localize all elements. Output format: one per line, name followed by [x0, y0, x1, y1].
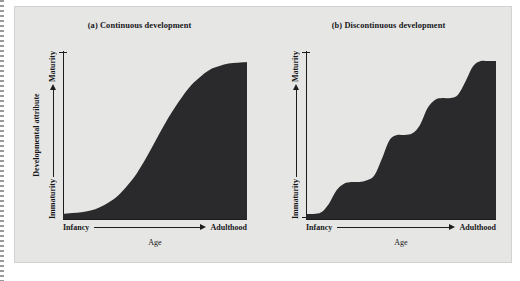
x-axis-high-label-continuous: Adulthood — [211, 223, 247, 232]
y-axis-arrow-icon — [46, 84, 60, 177]
y-axis-scale-continuous: Maturity Immaturity — [46, 51, 60, 219]
y-axis-high-label-discontinuous: Maturity — [292, 51, 300, 82]
y-axis-low-label-discontinuous: Immaturity — [292, 179, 300, 219]
chart-title-discontinuous: (b) Discontinuous development — [264, 21, 513, 30]
y-axis-low-label-continuous: Immaturity — [49, 179, 57, 219]
x-axis-line-continuous — [63, 219, 247, 220]
x-axis-title-continuous: Age — [63, 238, 247, 247]
discontinuous-growth-curve — [306, 51, 496, 219]
chart-panel-discontinuous: (b) Discontinuous development Maturity I… — [264, 7, 513, 264]
x-axis-low-label-continuous: Infancy — [63, 223, 89, 232]
x-axis-line-discontinuous — [306, 219, 496, 220]
plot-area-continuous — [63, 51, 247, 219]
x-axis-arrow-icon — [94, 224, 205, 232]
chart-title-continuous: (a) Continuous development — [15, 21, 264, 30]
x-axis-low-label-discontinuous: Infancy — [306, 223, 332, 232]
continuous-growth-curve — [63, 51, 247, 219]
x-axis-arrow-icon — [337, 224, 454, 232]
y-axis-scale-discontinuous: Maturity Immaturity — [289, 51, 303, 219]
x-axis-title-discontinuous: Age — [306, 238, 496, 247]
figure-panel: (a) Continuous development Developmental… — [14, 6, 512, 263]
page-binding-edge — [0, 0, 4, 281]
figure-container: (a) Continuous development Developmental… — [0, 0, 520, 281]
chart-panel-continuous: (a) Continuous development Developmental… — [15, 7, 264, 264]
x-axis-labels-discontinuous: Infancy Adulthood — [306, 223, 496, 232]
y-axis-arrow-icon — [289, 84, 303, 177]
x-axis-labels-continuous: Infancy Adulthood — [63, 223, 247, 232]
y-axis-high-label-continuous: Maturity — [49, 51, 57, 82]
x-axis-high-label-discontinuous: Adulthood — [460, 223, 496, 232]
y-axis-outer-label-text: Developmental attribute — [32, 93, 41, 176]
y-axis-outer-label-continuous: Developmental attribute — [29, 51, 43, 219]
plot-area-discontinuous — [306, 51, 496, 219]
